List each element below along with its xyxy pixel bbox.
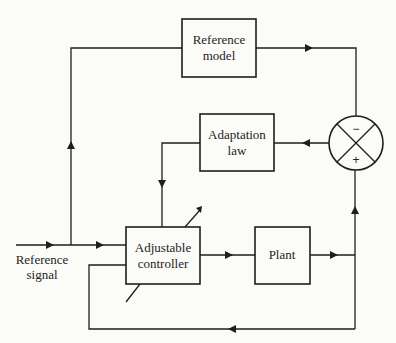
plant-block[interactable]: Plant <box>255 227 310 284</box>
reference-signal-label-line1: Reference <box>16 252 69 267</box>
arrow-icon <box>351 206 359 214</box>
adjustable-controller-block[interactable]: Adjustable controller <box>126 227 200 284</box>
adaptation-law-label-line1: Adaptation <box>208 127 266 142</box>
reference-signal-label-line2: signal <box>26 267 57 282</box>
mrac-block-diagram: Reference model Adaptation law Adjustabl… <box>0 0 396 343</box>
adjust-arrow-head <box>185 210 200 227</box>
arrow-icon <box>330 251 338 259</box>
arrow-icon <box>158 180 166 188</box>
arrow-icon <box>305 44 313 52</box>
arrow-icon <box>225 251 233 259</box>
arrow-icon <box>302 139 310 147</box>
reference-model-block[interactable]: Reference model <box>182 19 256 77</box>
adjustable-controller-label-line2: controller <box>138 256 189 271</box>
arrow-icon <box>67 141 75 149</box>
minus-sign: − <box>352 122 359 136</box>
adaptation-law-block[interactable]: Adaptation law <box>200 114 274 171</box>
arrow-icon <box>96 241 104 249</box>
adjust-arrow-tail <box>126 284 140 302</box>
adaptation-law-label-line2: law <box>228 143 247 158</box>
wire-model-output <box>256 48 356 116</box>
adjustable-controller-label-line1: Adjustable <box>135 240 192 255</box>
plant-label: Plant <box>269 247 296 262</box>
summing-junction[interactable]: − + <box>329 116 383 170</box>
wire-to-reference-model <box>71 48 182 245</box>
arrow-icon <box>228 325 236 333</box>
wire-adaptation-output <box>162 143 200 227</box>
reference-model-label-line2: model <box>203 48 236 63</box>
plus-sign: + <box>352 153 359 167</box>
arrow-icon <box>46 241 54 249</box>
reference-model-label-line1: Reference <box>193 32 246 47</box>
